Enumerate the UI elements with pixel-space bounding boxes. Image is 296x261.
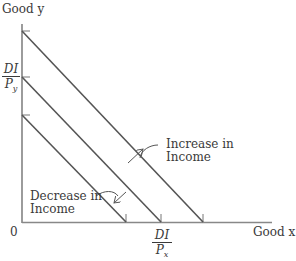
decrease-income-annotation: Decrease in Income bbox=[30, 190, 102, 216]
x-intercept-label: DI Px bbox=[152, 228, 172, 261]
y-axis-label: Good y bbox=[2, 3, 44, 16]
y-intercept-label: DI Py bbox=[2, 62, 20, 96]
increase-income-annotation: Increase in Income bbox=[166, 138, 234, 164]
origin-label: 0 bbox=[10, 226, 18, 239]
x-axis-label: Good x bbox=[253, 226, 295, 239]
increase-curved-pointer bbox=[140, 145, 158, 158]
